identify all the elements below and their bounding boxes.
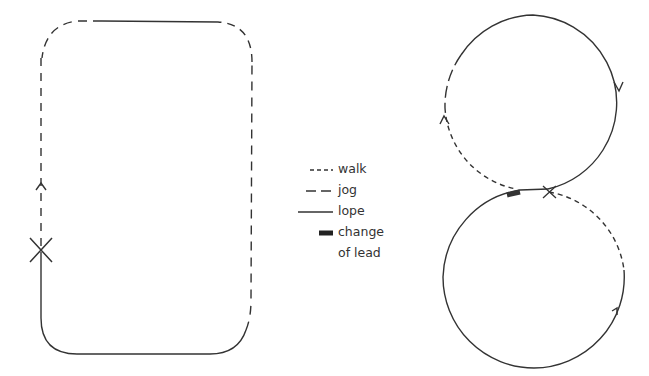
legend-label-jog: jog [338, 182, 357, 198]
rectangle-pattern [30, 21, 252, 354]
walk-line-icon [296, 160, 336, 180]
fig8-start-x-icon [543, 186, 556, 198]
change-of-lead-marker [507, 192, 520, 195]
legend-label-of-lead: of lead [338, 245, 381, 261]
legend-item-change-of-lead-line2: of lead [296, 244, 416, 265]
rect-lope-bottom [41, 252, 246, 354]
legend-item-walk: walk [296, 160, 416, 181]
jog-line-icon [296, 181, 336, 201]
legend-item-lope: lope [296, 202, 416, 223]
fig8-arrow-upper-left-icon [440, 116, 449, 124]
legend-label-lope: lope [338, 203, 365, 219]
change-of-lead-bar-icon [296, 223, 336, 243]
legend: walk jog lope change of lead [296, 160, 416, 265]
rect-jog-right [246, 62, 252, 330]
rect-lope-top [102, 21, 218, 22]
rect-jog-top-left [42, 21, 102, 58]
rect-direction-arrow-icon [36, 183, 46, 190]
fig8-upper-walk [445, 108, 516, 189]
fig8-lower-walk [549, 192, 624, 270]
fig8-upper-lope [461, 15, 617, 189]
rect-jog-top-right [218, 22, 252, 62]
legend-label-change: change [338, 224, 384, 240]
legend-item-change-of-lead: change [296, 223, 416, 244]
legend-item-jog: jog [296, 181, 416, 202]
legend-label-walk: walk [338, 161, 367, 177]
fig8-upper-jog [445, 55, 461, 108]
figure-eight-pattern [440, 15, 624, 368]
lope-line-icon [296, 202, 336, 222]
